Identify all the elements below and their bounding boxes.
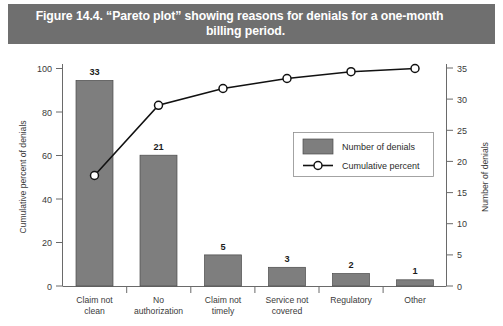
x-axis-category-labels: Claim not clean No authorization Claim n… (76, 295, 426, 316)
right-tick-label: 0 (457, 282, 462, 292)
cumulative-marker[interactable] (347, 68, 355, 76)
right-tick-label: 25 (457, 126, 467, 136)
cumulative-marker[interactable] (91, 172, 99, 180)
bar-value-label: 2 (348, 260, 353, 270)
x-axis-ticks (127, 287, 383, 294)
category-label: Regulatory (330, 295, 372, 305)
legend-label-cumulative-percent: Cumulative percent (342, 161, 420, 171)
category-label: covered (272, 306, 303, 316)
category-label: No (153, 295, 164, 305)
figure-caption-text: Figure 14.4. “Pareto plot” showing reaso… (8, 9, 495, 39)
left-tick-label: 80 (42, 108, 52, 118)
pareto-chart: 100 80 60 40 20 0 Cumulative percent of … (0, 46, 503, 326)
category-label: timely (212, 306, 235, 316)
bar-claim-not-timely[interactable] (205, 255, 242, 286)
left-tick-label: 100 (37, 64, 52, 74)
left-axis-ticks: 100 80 60 40 20 0 (37, 64, 63, 292)
bar-service-not-covered[interactable] (269, 267, 306, 286)
left-tick-label: 20 (42, 238, 52, 248)
legend-swatch-number-of-denials (303, 139, 333, 154)
bar-value-label: 5 (220, 242, 225, 252)
left-tick-label: 0 (47, 282, 52, 292)
category-label: clean (84, 306, 105, 316)
bar-regulatory[interactable] (333, 274, 370, 287)
bars-group (76, 80, 434, 286)
left-tick-label: 40 (42, 195, 52, 205)
chart-legend: Number of denials Cumulative percent (294, 133, 434, 177)
bar-value-label: 1 (412, 266, 417, 276)
cumulative-marker[interactable] (219, 85, 227, 93)
bar-value-label: 21 (153, 142, 163, 152)
left-axis-title: Cumulative percent of denials (18, 120, 28, 233)
bar-no-authorization[interactable] (140, 155, 177, 286)
bar-value-label: 33 (89, 67, 99, 77)
right-tick-label: 15 (457, 188, 467, 198)
right-tick-label: 5 (457, 250, 462, 260)
right-axis-title: Number of denials (480, 142, 490, 212)
legend-label-number-of-denials: Number of denials (342, 142, 416, 152)
bar-value-label: 3 (284, 254, 289, 264)
category-label: Claim not (76, 295, 113, 305)
right-tick-label: 20 (457, 157, 467, 167)
right-tick-label: 10 (457, 219, 467, 229)
bar-claim-not-clean[interactable] (76, 80, 113, 286)
cumulative-marker[interactable] (411, 65, 419, 73)
category-label: authorization (134, 306, 183, 316)
category-label: Service not (266, 295, 310, 305)
right-tick-label: 30 (457, 95, 467, 105)
category-label: Claim not (205, 295, 242, 305)
right-axis-ticks: 0 5 10 15 20 25 30 35 (447, 64, 468, 292)
right-tick-label: 35 (457, 64, 467, 74)
left-tick-label: 60 (42, 151, 52, 161)
bar-other[interactable] (397, 280, 434, 286)
cumulative-marker[interactable] (283, 75, 291, 83)
cumulative-marker[interactable] (155, 101, 163, 109)
category-label: Other (404, 295, 426, 305)
figure-caption-bar: Figure 14.4. “Pareto plot” showing reaso… (8, 4, 495, 44)
